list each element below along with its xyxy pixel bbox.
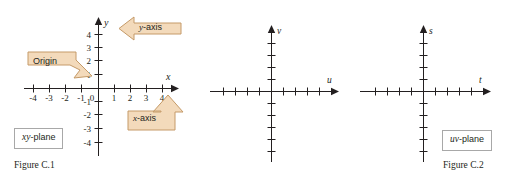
x-axis-line-group (24, 85, 179, 92)
x-axis-callout-suffix: -axis (137, 113, 156, 123)
figure-c1: x y -4 -3 -2 -1 0 1 2 3 4 4 3 2 1 -1 -2 … (0, 0, 210, 181)
t-axis-variable-label: t (479, 75, 482, 85)
svg-text:-3: -3 (45, 93, 53, 103)
figure-c2: u v uv-plane Figure C.2 (210, 0, 360, 181)
y-axis-variable-label: y (103, 17, 109, 28)
x-axis-callout-label: x-axis (133, 114, 156, 123)
svg-text:2: 2 (128, 93, 133, 103)
svg-text:2: 2 (87, 56, 92, 66)
origin-callout-text: Origin (33, 56, 57, 66)
origin-callout-label: Origin (33, 57, 57, 66)
svg-text:1: 1 (112, 93, 117, 103)
figure-ts: t s ts-plane (360, 0, 514, 181)
s-axis-line-group (420, 25, 427, 162)
svg-text:-4: -4 (84, 138, 92, 148)
svg-text:-2: -2 (61, 93, 69, 103)
y-axis-callout-label: y-axis (139, 23, 162, 32)
y-axis-callout-suffix: -axis (143, 22, 162, 32)
y-axis-line-group (95, 17, 102, 156)
svg-text:-1: -1 (84, 97, 92, 107)
svg-text:3: 3 (144, 93, 149, 103)
svg-text:-3: -3 (84, 124, 92, 134)
svg-text:-4: -4 (29, 93, 37, 103)
xy-plane-label-box: xy-plane (14, 128, 63, 149)
figure-c1-plot: x y -4 -3 -2 -1 0 1 2 3 4 4 3 2 1 -1 -2 … (0, 0, 210, 181)
figure-c2-plot: u v (210, 0, 360, 181)
v-axis-line-group (268, 25, 275, 162)
x-axis-variable-label: x (165, 71, 171, 82)
svg-text:-2: -2 (84, 110, 92, 120)
u-axis-variable-label: u (327, 75, 332, 85)
figure-c1-caption: Figure C.1 (14, 161, 55, 171)
s-axis-variable-label: s (429, 26, 433, 36)
figure-ts-plot: t s (360, 0, 514, 181)
svg-text:4: 4 (87, 30, 92, 40)
xy-plane-suffix: -plane (30, 132, 55, 142)
svg-text:3: 3 (87, 43, 92, 53)
v-axis-variable-label: v (277, 26, 282, 36)
